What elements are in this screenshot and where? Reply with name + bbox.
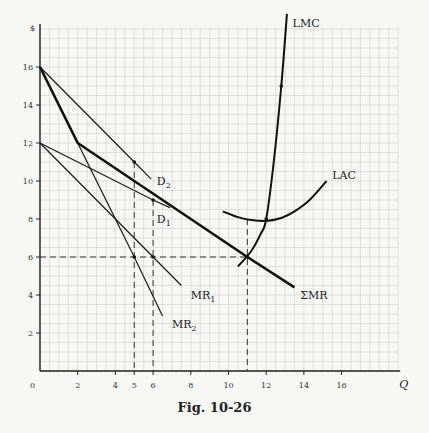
label-sum-mr: ΣMR	[300, 289, 328, 302]
label-d1: D1	[157, 213, 171, 228]
chart-canvas: $Q02456810121416246810121416 D2D1MR1MR2Σ…	[0, 0, 429, 400]
x-tick-label: 10	[223, 381, 233, 390]
point-marker	[151, 198, 155, 202]
curve-sum-mr	[40, 67, 294, 287]
y-tick-label: 8	[28, 215, 33, 224]
point-marker	[264, 217, 268, 221]
y-tick-label: 2	[28, 329, 33, 338]
x-tick-label: 6	[151, 381, 156, 390]
y-axis-label: $	[30, 24, 35, 33]
point-marker	[279, 84, 283, 88]
point-marker	[132, 160, 136, 164]
label-mr2: MR2	[172, 318, 197, 333]
y-tick-label: 16	[23, 63, 33, 72]
y-tick-label: 6	[28, 253, 33, 262]
x-tick-label: 16	[337, 381, 347, 390]
x-tick-label: 2	[75, 381, 80, 390]
grid	[40, 27, 398, 371]
point-marker	[246, 255, 250, 259]
x-tick-label: 12	[261, 381, 271, 390]
label-mr1: MR1	[191, 289, 216, 304]
point-marker	[132, 255, 136, 259]
x-tick-label: 8	[188, 381, 193, 390]
y-tick-label: 12	[23, 139, 33, 148]
y-tick-label: 4	[28, 291, 33, 300]
y-tick-label: 10	[23, 177, 33, 186]
series-curves	[40, 14, 327, 316]
y-tick-label: 14	[23, 101, 33, 110]
curve-lac	[223, 181, 327, 221]
figure-caption: Fig. 10-26	[0, 400, 429, 415]
label-d2: D2	[157, 175, 171, 190]
x-tick-label: 5	[132, 381, 137, 390]
point-marker	[151, 255, 155, 259]
label-lmc: LMC	[293, 17, 320, 30]
x-tick-label: 14	[299, 381, 309, 390]
origin-label: 0	[30, 381, 35, 390]
axes: $Q02456810121416246810121416	[23, 24, 408, 391]
x-tick-label: 4	[113, 381, 118, 390]
x-axis-label: Q	[399, 378, 408, 391]
label-lac: LAC	[332, 169, 356, 182]
